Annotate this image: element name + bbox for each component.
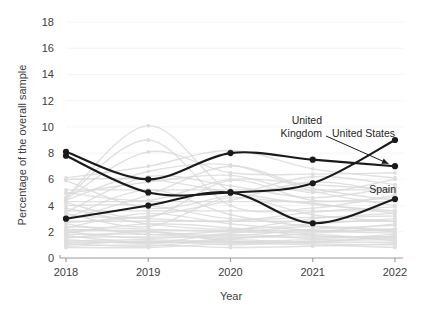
series-point-united-kingdom xyxy=(310,157,316,163)
background-series-point xyxy=(311,187,315,191)
background-series-point xyxy=(393,227,397,231)
background-series-point xyxy=(229,184,233,188)
background-series-point xyxy=(393,234,397,238)
background-series-point xyxy=(229,222,233,226)
series-point-united-states xyxy=(145,189,151,195)
background-series-point xyxy=(229,164,233,168)
x-tick-label: 2022 xyxy=(383,266,407,278)
background-series-point xyxy=(146,150,150,154)
y-tick-label: 4 xyxy=(48,200,54,212)
series-point-united-states xyxy=(310,180,316,186)
x-tick-label: 2021 xyxy=(301,266,325,278)
background-series-point xyxy=(64,210,68,214)
y-tick-label: 18 xyxy=(42,16,54,28)
background-series-point xyxy=(146,170,150,174)
chart-container: 024681012141618 20182019202020212022 Uni… xyxy=(0,0,423,316)
background-series-point xyxy=(146,198,150,202)
background-series-point xyxy=(393,238,397,242)
background-series-point xyxy=(146,230,150,234)
background-series-point xyxy=(64,246,68,250)
background-series-point xyxy=(229,226,233,230)
background-series-point xyxy=(229,209,233,213)
line-chart: 024681012141618 20182019202020212022 Uni… xyxy=(0,0,423,316)
y-tick-label: 0 xyxy=(48,252,54,264)
background-series-point xyxy=(229,198,233,202)
series-point-united-kingdom xyxy=(145,176,151,182)
background-series-point xyxy=(393,223,397,227)
annotation-united-kingdom-line2: Kingdom xyxy=(281,127,323,139)
background-series-point xyxy=(393,171,397,175)
background-series-point xyxy=(146,164,150,168)
series-point-united-states xyxy=(63,153,69,159)
series-point-spain xyxy=(392,196,398,202)
background-series-point xyxy=(229,242,233,246)
background-series-point xyxy=(229,174,233,178)
background-series-point xyxy=(229,177,233,181)
background-series-point xyxy=(393,205,397,209)
background-series-point xyxy=(229,204,233,208)
series-point-spain xyxy=(63,216,69,222)
background-series-point xyxy=(146,246,150,250)
background-series-point xyxy=(64,192,68,196)
background-series-point xyxy=(311,167,315,171)
background-series-point xyxy=(393,246,397,250)
background-series-point xyxy=(146,124,150,128)
background-series-point xyxy=(311,210,315,214)
background-series-point xyxy=(393,177,397,181)
annotation-united-kingdom-line1: United xyxy=(292,114,323,126)
background-series-point xyxy=(311,233,315,237)
y-tick-label: 14 xyxy=(42,68,54,80)
background-series-point xyxy=(64,177,68,181)
background-series-point xyxy=(311,175,315,179)
background-series-point xyxy=(311,239,315,243)
background-series-point xyxy=(229,238,233,242)
background-series-point xyxy=(146,138,150,142)
background-series-point xyxy=(311,217,315,221)
x-tick-label: 2019 xyxy=(136,266,160,278)
x-axis-label: Year xyxy=(220,290,243,302)
series-point-spain xyxy=(145,202,151,208)
background-series-point xyxy=(146,222,150,226)
background-series-point xyxy=(146,214,150,218)
y-tick-label: 6 xyxy=(48,173,54,185)
background-series-point xyxy=(311,191,315,195)
y-tick-label: 8 xyxy=(48,147,54,159)
x-tick-label: 2018 xyxy=(54,266,78,278)
background-series-point xyxy=(311,196,315,200)
annotation-spain: Spain xyxy=(369,183,396,195)
background-series-point xyxy=(146,239,150,243)
series-point-united-kingdom xyxy=(227,150,233,156)
background-series-point xyxy=(229,246,233,250)
y-tick-label: 10 xyxy=(42,121,54,133)
background-series-point xyxy=(393,242,397,246)
y-tick-label: 16 xyxy=(42,42,54,54)
y-tick-label: 2 xyxy=(48,226,54,238)
y-axis-label: Percentage of the overall sample xyxy=(16,65,28,226)
x-tick-label: 2020 xyxy=(218,266,242,278)
background-series-point xyxy=(393,209,397,213)
background-series-point xyxy=(229,213,233,217)
y-tick-label: 12 xyxy=(42,95,54,107)
series-point-spain xyxy=(227,189,233,195)
background-series-point xyxy=(311,202,315,206)
series-point-united-kingdom xyxy=(392,163,398,169)
series-point-spain xyxy=(310,220,316,226)
background-series-point xyxy=(311,243,315,247)
annotation-united-states: United States xyxy=(332,127,395,139)
